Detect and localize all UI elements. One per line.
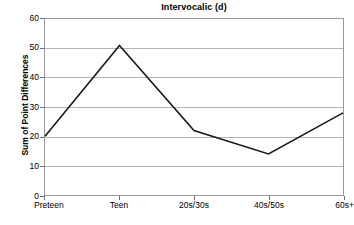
y-axis-tick-label: 10 [5,162,39,171]
x-axis-tick-label: 40s/50s [254,200,284,210]
y-axis-tick-label: 40 [5,73,39,82]
y-axis-tick-label: 20 [5,132,39,141]
data-series-line [45,19,343,195]
y-axis-tick-label: 30 [5,103,39,112]
line-chart: Intervocalic (d) Sum of Point Difference… [0,0,354,225]
plot-area [44,18,344,196]
x-axis-tick-label: 20s/30s [179,200,209,210]
chart-title: Intervocalic (d) [44,1,344,13]
x-axis-tick-label: 60s+ [335,200,354,210]
x-axis-tick-label: Teen [110,200,128,210]
y-axis-tick-label: 60 [5,14,39,23]
x-axis-tick-label: Preteen [34,200,64,210]
y-axis-tick-label: 50 [5,43,39,52]
